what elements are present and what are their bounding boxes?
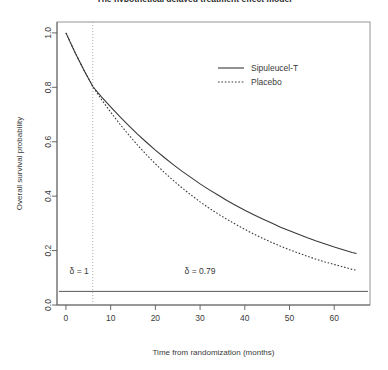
- x-tick-label: 30: [195, 313, 205, 323]
- delta-annotation: δ = 1: [70, 266, 89, 276]
- x-axis-label: Time from randomization (months): [153, 348, 275, 357]
- legend-label: Sipuleucel-T: [251, 63, 298, 73]
- x-tick-label: 20: [151, 313, 161, 323]
- y-tick-label: 1.0: [43, 27, 53, 39]
- series-line-placebo: [66, 33, 357, 270]
- y-tick-label: 0.8: [43, 81, 53, 93]
- y-tick-label: 0.4: [43, 190, 53, 202]
- legend-label: Placebo: [251, 77, 282, 87]
- series-line-sipuleucel-t: [66, 33, 357, 254]
- x-tick-label: 50: [285, 313, 295, 323]
- x-tick-label: 40: [240, 313, 250, 323]
- y-tick-label: 0.6: [43, 136, 53, 148]
- plot-frame: [57, 22, 370, 305]
- y-axis-label: Overall survival probability: [15, 117, 24, 210]
- x-tick-label: 10: [106, 313, 116, 323]
- survival-plot: 01020304050600.00.20.40.60.81.0Time from…: [0, 0, 388, 370]
- delta-annotation: δ = 0.79: [185, 266, 216, 276]
- y-tick-label: 0.2: [43, 244, 53, 256]
- y-tick-label: 0.0: [43, 299, 53, 311]
- x-tick-label: 0: [64, 313, 69, 323]
- x-tick-label: 60: [329, 313, 339, 323]
